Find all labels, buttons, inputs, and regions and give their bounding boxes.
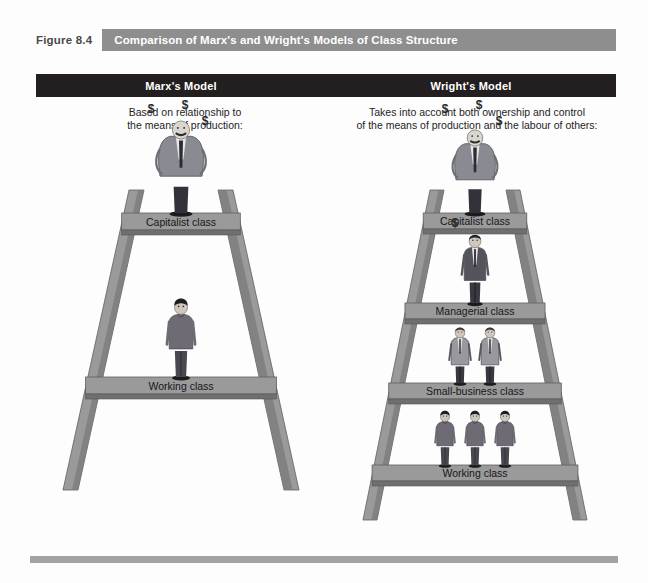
ladder-rung: Working class <box>372 465 578 486</box>
dollar-sign: $ <box>476 98 483 112</box>
model-header-bar: Marx's Model Wright's Model <box>36 74 616 97</box>
figure-tie <box>489 339 490 353</box>
rung-figures <box>156 121 206 217</box>
worker-eye-left <box>473 415 474 416</box>
worker-eye-right <box>476 415 477 416</box>
figure-arm-right <box>486 255 488 275</box>
rung-label: Working class <box>148 380 213 392</box>
worker-eye-right <box>183 305 185 307</box>
capitalist-trousers <box>174 187 189 213</box>
dollar-sign: $ <box>442 102 449 116</box>
rung-figures <box>449 328 501 386</box>
figure-eye-left <box>458 331 459 332</box>
rung-figures <box>167 299 195 381</box>
figure-eye-left <box>488 331 489 332</box>
figure-title-banner: Comparison of Marx's and Wright's Models… <box>102 29 616 51</box>
model-header-wright: Wright's Model <box>326 74 616 97</box>
worker-sweater <box>437 422 453 446</box>
marx-model-panel: Capitalist class$$$Working class <box>36 135 326 525</box>
wright-model-panel: Capitalist class$$$Managerial class$Smal… <box>330 135 620 525</box>
rung-label: Capitalist class <box>440 215 510 227</box>
capitalist-trousers <box>468 189 481 213</box>
worker-sweater <box>497 422 513 446</box>
capitalist-head <box>467 130 483 146</box>
rung-edge <box>122 230 241 235</box>
capitalist-tie <box>473 148 477 173</box>
marx-ladder-diagram: Capitalist class$$$Working class <box>36 135 326 525</box>
worker-eye-right <box>446 415 447 416</box>
figure-arm-left <box>462 255 464 275</box>
rung-label: Capitalist class <box>146 216 216 228</box>
worker-leg-gap <box>445 447 446 464</box>
dollar-sign: $ <box>202 114 209 128</box>
figure-title-row: Figure 8.4 Comparison of Marx's and Wrig… <box>36 29 616 51</box>
rung-label: Working class <box>442 467 507 479</box>
rung-label: Managerial class <box>436 305 515 317</box>
rung-edge <box>86 394 277 399</box>
worker-sweater <box>467 422 483 446</box>
dollar-sign: $ <box>496 114 503 128</box>
figure-tie <box>459 339 460 353</box>
dollar-sign-group: $ <box>452 216 459 230</box>
worker-eye-left <box>178 305 180 307</box>
figure-leg-gap <box>474 282 475 302</box>
worker-leg-gap <box>505 447 506 464</box>
ladder-rung: Small-business class <box>389 383 562 404</box>
model-header-marx: Marx's Model <box>36 74 326 97</box>
capitalist-eye-left <box>177 127 179 129</box>
rung-edge <box>405 319 545 324</box>
rung-figures <box>435 411 515 468</box>
wright-ladder-diagram: Capitalist class$$$Managerial class$Smal… <box>330 135 620 525</box>
worker-eye-left <box>503 415 504 416</box>
figure-eye-left <box>472 240 473 241</box>
figure-leg-gap <box>459 366 460 382</box>
worker-leg-gap <box>475 447 476 464</box>
rung-figures <box>462 235 488 306</box>
rung-edge <box>372 481 578 486</box>
rung-label: Small-business class <box>426 385 524 397</box>
capitalist-eye-left <box>471 135 473 137</box>
dollar-sign: $ <box>452 216 459 230</box>
dollar-sign: $ <box>148 102 155 116</box>
worker-sweater <box>169 314 193 349</box>
rung-edge <box>423 229 527 234</box>
worker-eye-right <box>506 415 507 416</box>
figure-eye-right <box>491 331 492 332</box>
capitalist-eye-right <box>477 135 479 137</box>
figure-number-label: Figure 8.4 <box>36 29 102 51</box>
worker-leg-gap <box>180 351 181 376</box>
dollar-sign: $ <box>182 98 189 112</box>
rung-edge <box>389 399 562 404</box>
capitalist-tie <box>179 141 183 168</box>
worker-eye-left <box>443 415 444 416</box>
figure-tie <box>474 249 476 267</box>
figure-leg-gap <box>489 366 490 382</box>
figure-eye-right <box>476 240 477 241</box>
capitalist-head <box>172 121 189 139</box>
figure-container: Figure 8.4 Comparison of Marx's and Wrig… <box>0 0 648 583</box>
rung-figures <box>453 130 498 217</box>
figure-eye-right <box>461 331 462 332</box>
capitalist-eye-right <box>183 127 185 129</box>
bottom-rule <box>30 556 618 563</box>
